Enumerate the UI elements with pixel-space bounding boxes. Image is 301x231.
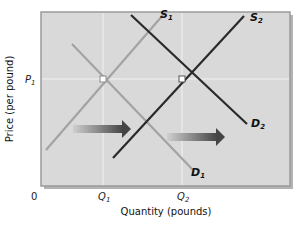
q1-tick-label: Q1 <box>98 191 110 204</box>
x-axis-title: Quantity (pounds) <box>121 206 212 217</box>
equilibrium-marker-2 <box>179 76 185 82</box>
s1-label: S1 <box>160 8 173 22</box>
equilibrium-marker-1 <box>100 76 106 82</box>
plot-area <box>41 12 290 186</box>
origin-label: 0 <box>31 191 37 202</box>
q2-tick-label: Q2 <box>177 191 190 204</box>
y-axis-title: Price (per pound) <box>4 56 15 143</box>
supply-demand-chart: S1 S2 D1 D2 P1 Q1 Q2 0 Quantity (pounds)… <box>0 0 301 231</box>
p1-tick-label: P1 <box>25 74 36 87</box>
